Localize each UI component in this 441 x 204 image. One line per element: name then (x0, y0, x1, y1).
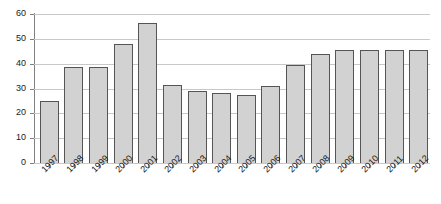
bar (409, 50, 428, 163)
bar (138, 23, 157, 163)
y-tick-label: 50 (0, 34, 26, 43)
y-tick-label: 60 (0, 9, 26, 18)
bar (212, 93, 231, 163)
bar (188, 91, 207, 163)
y-tick-label: 40 (0, 59, 26, 68)
bar (335, 50, 354, 163)
bar (163, 85, 182, 163)
bar (89, 67, 108, 163)
y-tick-label: 20 (0, 108, 26, 117)
y-tick-label: 0 (0, 158, 26, 167)
bar (360, 50, 379, 163)
bar-chart: 0102030405060 19971998199920002001200220… (0, 0, 441, 204)
bar (64, 67, 83, 163)
bar (286, 65, 305, 163)
bar (40, 101, 59, 163)
bar (385, 50, 404, 163)
y-tick-label: 10 (0, 133, 26, 142)
bar (261, 86, 280, 163)
bar (114, 44, 133, 163)
bar (237, 95, 256, 163)
y-tick-label: 30 (0, 84, 26, 93)
bar (311, 54, 330, 163)
plot-area (34, 14, 430, 163)
